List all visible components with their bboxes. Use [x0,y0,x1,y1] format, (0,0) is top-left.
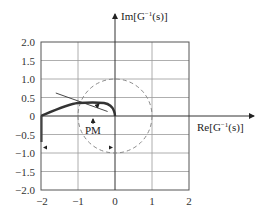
pm-label: PM [85,124,101,136]
svg-text:−1: −1 [72,195,84,207]
svg-text:0.5: 0.5 [21,92,35,104]
svg-text:1.0: 1.0 [21,73,35,85]
svg-text:−1.0: −1.0 [15,147,35,159]
x-axis-label: Re[G−1(s)] [197,121,244,134]
y-tick-labels: 2.0 1.5 1.0 0.5 0 −0.5 −1.0 −1.5 −2.0 [15,36,35,196]
svg-text:−2: −2 [36,195,48,207]
svg-text:2: 2 [186,195,192,207]
y-axis-label: Im[G−1(s)] [121,10,168,23]
svg-text:0: 0 [30,110,36,122]
svg-text:−1.5: −1.5 [15,166,35,178]
svg-text:2.0: 2.0 [21,36,35,48]
x-tick-labels: −2 −1 0 1 2 [36,195,192,207]
svg-text:−2.0: −2.0 [15,184,35,196]
svg-text:1.5: 1.5 [21,55,35,67]
svg-text:0: 0 [112,195,118,207]
inverse-nyquist-chart: PM 2.0 1.5 1.0 0.5 0 −0.5 −1.0 −1.5 −2.0… [0,0,271,220]
arc-arrow [97,104,99,106]
svg-text:1: 1 [149,195,155,207]
svg-text:−0.5: −0.5 [15,129,35,141]
